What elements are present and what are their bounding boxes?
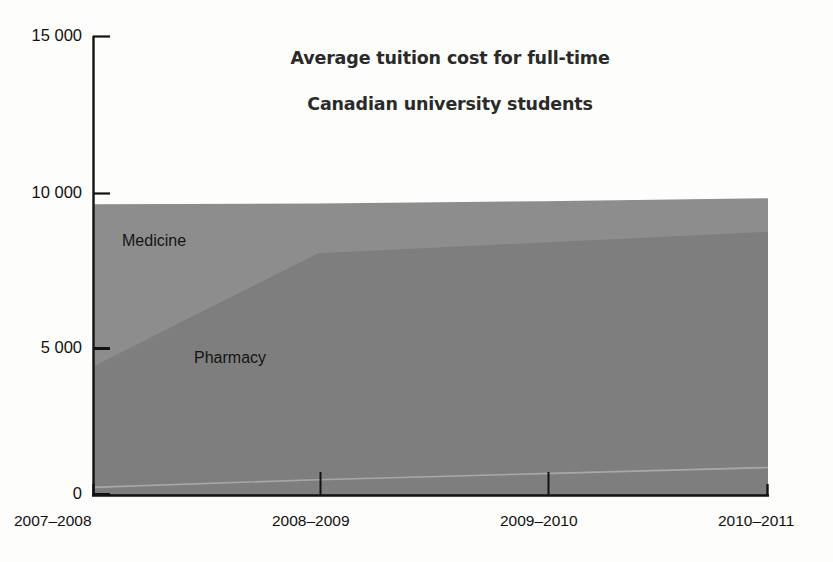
y-axis-label-10000: 10 000	[2, 183, 82, 202]
y-axis-label-15000: 15 000	[2, 26, 82, 45]
x-axis-label-2010-2011: 2010–2011	[718, 512, 794, 530]
x-axis-label-2007-2008: 2007–2008	[14, 512, 92, 530]
series-label-medicine: Medicine	[122, 232, 186, 250]
x-axis-label-2009-2010: 2009–2010	[500, 512, 578, 530]
y-axis-label-0: 0	[2, 484, 82, 503]
x-axis-label-2008-2009: 2008–2009	[272, 512, 350, 530]
chart-container: Average tuition cost for full-time Canad…	[0, 0, 833, 562]
series-label-pharmacy: Pharmacy	[194, 349, 266, 367]
area-chart-plot	[0, 0, 833, 562]
y-axis-label-5000: 5 000	[2, 338, 82, 357]
